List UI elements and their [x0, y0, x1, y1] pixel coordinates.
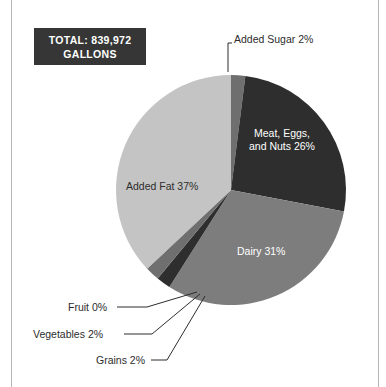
- slice-label-grains: Grains 2%: [96, 354, 145, 367]
- pie-chart: Added Sugar 2% Meat, Eggs, and Nuts 26% …: [0, 0, 386, 387]
- leader-line-vegetables: [124, 294, 200, 334]
- slice-label-meat-eggs-nuts-line-2: and Nuts 26%: [249, 140, 315, 153]
- leader-line-added-sugar: [228, 43, 232, 72]
- slice-label-meat-eggs-nuts: Meat, Eggs, and Nuts 26%: [249, 127, 315, 153]
- slice-label-added-fat: Added Fat 37%: [126, 180, 198, 193]
- slice-label-dairy: Dairy 31%: [237, 245, 285, 258]
- slice-label-meat-eggs-nuts-line-1: Meat, Eggs,: [249, 127, 315, 140]
- slice-label-fruit: Fruit 0%: [68, 301, 107, 314]
- chart-page: TOTAL: 839,972 GALLONS Added Sugar 2% Me…: [0, 0, 386, 387]
- slice-label-added-sugar: Added Sugar 2%: [234, 33, 313, 46]
- slice-label-vegetables: Vegetables 2%: [33, 328, 103, 341]
